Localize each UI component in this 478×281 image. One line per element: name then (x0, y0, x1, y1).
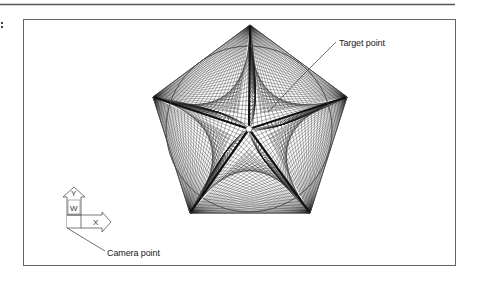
x-axis-label: X (93, 218, 99, 227)
camera-leader-line (67, 228, 105, 251)
colon-mark (1, 22, 3, 24)
colon-mark (1, 26, 3, 28)
y-axis-label: Y (71, 189, 77, 198)
wireframe-mesh (153, 25, 347, 213)
viewpoint-diagram: Target point Y W X Camera point (0, 0, 478, 281)
target-point-label: Target point (339, 38, 385, 48)
star-arm-spine (249, 25, 250, 129)
world-marker-label: W (70, 204, 78, 213)
camera-point-label: Camera point (107, 248, 160, 258)
camera-point-callout: Camera point (67, 228, 160, 258)
